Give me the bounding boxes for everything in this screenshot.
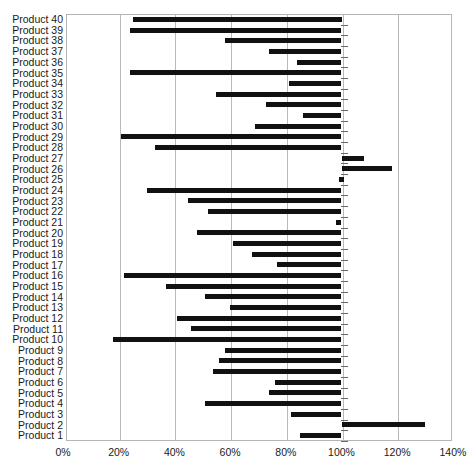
y-tick-mark [341, 142, 348, 143]
y-tick-mark [341, 110, 348, 111]
y-tick-mark [341, 228, 348, 229]
y-tick-mark [341, 398, 348, 399]
y-tick-mark [341, 89, 348, 90]
y-tick-mark [341, 121, 348, 122]
chart-container: Product 40Product 39Product 38Product 37… [0, 0, 474, 476]
y-tick-mark [341, 206, 348, 207]
x-tick-label: 140% [439, 447, 466, 458]
y-tick-mark [341, 99, 348, 100]
y-tick-mark [341, 67, 348, 68]
y-tick-mark [341, 131, 348, 132]
y-tick-mark [341, 430, 348, 431]
y-tick-mark [341, 78, 348, 79]
y-tick-mark [341, 441, 348, 442]
y-tick-mark [341, 260, 348, 261]
x-tick-label: 100% [328, 447, 355, 458]
y-tick-mark [341, 195, 348, 196]
y-tick-mark [341, 57, 348, 58]
y-tick-mark [341, 217, 348, 218]
y-tick-mark [341, 302, 348, 303]
y-tick-mark [341, 153, 348, 154]
y-tick-mark [341, 46, 348, 47]
y-tick-mark [341, 366, 348, 367]
y-tick-mark [341, 174, 348, 175]
y-tick-mark [341, 377, 348, 378]
y-tick-mark [341, 324, 348, 325]
y-tick-mark [341, 281, 348, 282]
y-tick-mark [341, 249, 348, 250]
y-tick-mark [341, 270, 348, 271]
y-tick-mark [341, 420, 348, 421]
axis-layer: 0%20%40%60%80%100%120%140% [0, 0, 474, 476]
y-tick-mark [341, 35, 348, 36]
y-tick-mark [341, 292, 348, 293]
y-tick-mark [341, 334, 348, 335]
x-tick-label: 0% [55, 447, 70, 458]
y-tick-mark [341, 356, 348, 357]
y-tick-mark [341, 185, 348, 186]
x-tick-label: 40% [164, 447, 185, 458]
y-tick-mark [341, 313, 348, 314]
y-tick-mark [341, 345, 348, 346]
x-tick-label: 80% [275, 447, 296, 458]
y-tick-mark [341, 163, 348, 164]
y-tick-mark [341, 409, 348, 410]
y-tick-mark [341, 238, 348, 239]
y-tick-mark [341, 25, 348, 26]
y-tick-mark [341, 388, 348, 389]
x-tick-label: 120% [384, 447, 411, 458]
x-tick-label: 60% [220, 447, 241, 458]
x-tick-label: 20% [108, 447, 129, 458]
